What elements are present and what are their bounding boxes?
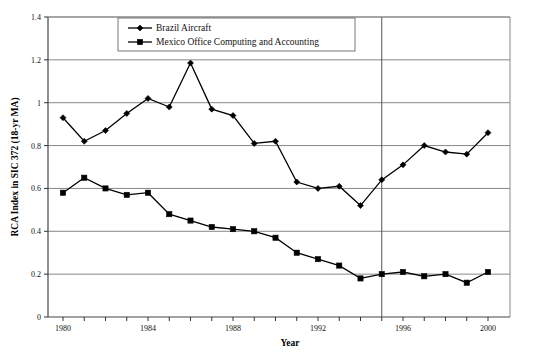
y-tick-label: 1.2 bbox=[31, 56, 41, 65]
data-point-marker bbox=[337, 263, 342, 268]
y-tick-label: 1.4 bbox=[31, 13, 41, 22]
data-point-marker bbox=[315, 257, 320, 262]
data-point-marker bbox=[188, 60, 194, 66]
y-axis-tick-labels: 00.20.40.60.811.21.4 bbox=[31, 13, 41, 322]
y-tick-label: 0.2 bbox=[31, 270, 41, 279]
data-point-marker bbox=[252, 229, 257, 234]
legend-label: Mexico Office Computing and Accounting bbox=[156, 37, 319, 47]
x-tick-label: 1996 bbox=[395, 324, 411, 333]
x-tick-label: 1992 bbox=[310, 324, 326, 333]
y-tick-label: 0 bbox=[37, 313, 41, 322]
data-point-marker bbox=[400, 269, 405, 274]
data-point-marker bbox=[358, 276, 363, 281]
x-tick-label: 1984 bbox=[140, 324, 156, 333]
data-point-marker bbox=[145, 190, 150, 195]
data-point-marker bbox=[230, 227, 235, 232]
y-tick-label: 1 bbox=[37, 99, 41, 108]
data-point-marker bbox=[166, 104, 172, 110]
data-point-marker bbox=[82, 175, 87, 180]
data-point-marker bbox=[273, 138, 279, 144]
series-line bbox=[63, 63, 488, 206]
data-point-marker bbox=[294, 179, 300, 185]
data-point-marker bbox=[443, 149, 449, 155]
data-point-marker bbox=[273, 235, 278, 240]
y-tick-label: 0.4 bbox=[31, 227, 41, 236]
data-point-marker bbox=[60, 190, 65, 195]
data-point-marker bbox=[315, 185, 321, 191]
data-point-marker bbox=[379, 272, 384, 277]
y-tick-label: 0.8 bbox=[31, 142, 41, 151]
x-tick-label: 1980 bbox=[55, 324, 71, 333]
data-point-marker bbox=[209, 224, 214, 229]
x-axis-ticks bbox=[63, 317, 488, 321]
chart-legend: Brazil AircraftMexico Office Computing a… bbox=[118, 18, 355, 51]
plot-frame bbox=[48, 17, 510, 317]
x-axis-title: Year bbox=[281, 338, 301, 348]
data-point-marker bbox=[464, 280, 469, 285]
y-tick-label: 0.6 bbox=[31, 184, 41, 193]
series-mexico-office-computing bbox=[60, 175, 490, 285]
data-series-layer bbox=[60, 60, 491, 285]
x-tick-label: 2000 bbox=[480, 324, 496, 333]
line-chart-plot: 198019841988199219962000 00.20.40.60.811… bbox=[0, 0, 545, 358]
data-point-marker bbox=[137, 39, 142, 44]
legend-label: Brazil Aircraft bbox=[156, 23, 211, 33]
x-tick-label: 1988 bbox=[225, 324, 241, 333]
data-point-marker bbox=[103, 186, 108, 191]
data-point-marker bbox=[124, 192, 129, 197]
data-point-marker bbox=[209, 106, 215, 112]
data-point-marker bbox=[422, 274, 427, 279]
y-gridlines bbox=[48, 17, 510, 274]
data-point-marker bbox=[188, 218, 193, 223]
legend-item: Mexico Office Computing and Accounting bbox=[128, 37, 319, 47]
data-point-marker bbox=[167, 212, 172, 217]
chart-container: 198019841988199219962000 00.20.40.60.811… bbox=[0, 0, 545, 358]
data-point-marker bbox=[443, 272, 448, 277]
y-axis-title: RCA Index in SIC 372 (18-yr MA) bbox=[10, 97, 21, 236]
series-brazil-aircraft bbox=[60, 60, 491, 209]
data-point-marker bbox=[294, 250, 299, 255]
x-axis-tick-labels: 198019841988199219962000 bbox=[55, 324, 496, 333]
data-point-marker bbox=[485, 269, 490, 274]
